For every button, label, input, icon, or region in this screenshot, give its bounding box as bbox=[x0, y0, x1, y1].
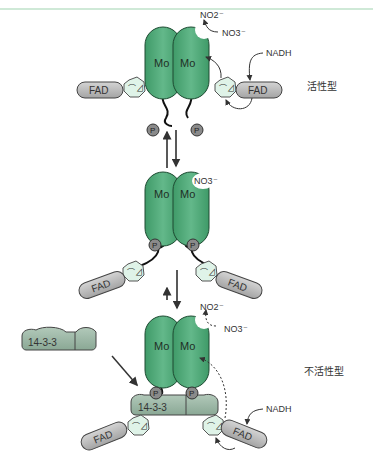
svg-text:P: P bbox=[194, 126, 199, 135]
svg-text:14-3-3: 14-3-3 bbox=[28, 337, 57, 348]
svg-text:P: P bbox=[189, 389, 194, 398]
electron-donor-label: NADH bbox=[266, 48, 292, 58]
phosphorylated-state: Mo Mo NO3⁻ P P ⌒⊿ ⌒⊿ FAD FAD bbox=[77, 172, 265, 301]
svg-text:NO3⁻: NO3⁻ bbox=[224, 324, 248, 334]
svg-text:NO2⁻: NO2⁻ bbox=[200, 302, 224, 312]
svg-text:P: P bbox=[150, 126, 155, 135]
svg-text:Mo: Mo bbox=[154, 188, 169, 200]
binding-arrow bbox=[112, 356, 137, 385]
mo-label: Mo bbox=[180, 57, 195, 69]
nitrate-reductase-regulation-diagram: Mo Mo ⌒⊿ ⌒⊿ FAD FAD P P NO2⁻ NO3⁻ NADH 活… bbox=[0, 0, 373, 476]
svg-text:⌒⊿: ⌒⊿ bbox=[219, 84, 235, 93]
svg-text:Mo: Mo bbox=[180, 340, 195, 352]
substrate-label: NO3⁻ bbox=[222, 28, 246, 38]
svg-text:⌒⊿: ⌒⊿ bbox=[132, 422, 148, 431]
product-label: NO2⁻ bbox=[200, 10, 224, 20]
active-state-label: 活性型 bbox=[307, 80, 337, 92]
svg-text:FAD: FAD bbox=[89, 85, 108, 96]
inactive-state: Mo Mo 14-3-3 P P ⌒⊿ ⌒⊿ FAD FAD NO2⁻ NO3⁻… bbox=[79, 302, 344, 452]
svg-text:⌒⊿: ⌒⊿ bbox=[200, 268, 216, 277]
active-state: Mo Mo ⌒⊿ ⌒⊿ FAD FAD P P NO2⁻ NO3⁻ NADH 活… bbox=[77, 10, 337, 136]
svg-text:P: P bbox=[152, 241, 157, 250]
svg-text:⌒⊿: ⌒⊿ bbox=[207, 422, 223, 431]
svg-text:Mo: Mo bbox=[154, 340, 169, 352]
svg-text:P: P bbox=[190, 241, 195, 250]
svg-text:NADH: NADH bbox=[266, 404, 292, 414]
svg-text:P: P bbox=[153, 389, 158, 398]
svg-text:⌒⊿: ⌒⊿ bbox=[128, 84, 144, 93]
svg-text:FAD: FAD bbox=[248, 85, 267, 96]
svg-text:⌒⊿: ⌒⊿ bbox=[127, 268, 143, 277]
inactive-state-label: 不活性型 bbox=[304, 365, 344, 377]
substrate-label: NO3⁻ bbox=[194, 176, 218, 186]
free-14-3-3-protein: 14-3-3 bbox=[22, 327, 96, 350]
svg-text:14-3-3: 14-3-3 bbox=[138, 402, 167, 413]
mo-label: Mo bbox=[154, 57, 169, 69]
svg-text:Mo: Mo bbox=[180, 188, 195, 200]
